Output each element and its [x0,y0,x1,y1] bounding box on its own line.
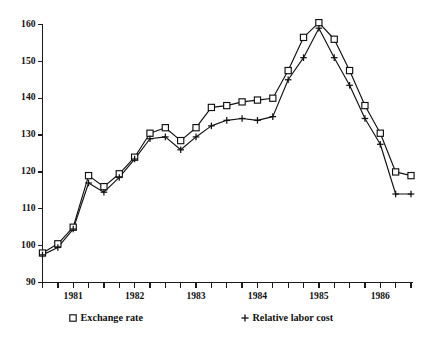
data-point-plus [239,115,246,122]
legend-item-relative-labor-cost: Relative labor cost [241,312,333,323]
data-point-square [408,173,414,179]
legend-label: Exchange rate [81,312,144,323]
data-point-square [162,125,168,131]
x-tick-label: 1985 [309,290,328,301]
data-point-square [393,169,399,175]
x-tick-label: 1982 [125,290,144,301]
data-point-square [101,184,107,190]
data-point-plus [408,191,415,198]
data-point-plus [346,82,353,89]
data-point-square [285,67,291,73]
data-point-plus [223,117,230,124]
data-point-square [208,104,214,110]
y-tick-label: 110 [22,202,36,213]
data-point-square [377,130,383,136]
y-tick-label: 130 [21,128,36,139]
data-point-square [85,173,91,179]
data-point-square [147,130,153,136]
y-axis-ticks: 90100110120130140150160 [21,18,42,287]
data-point-square [362,102,368,108]
data-point-square [254,97,260,103]
chart-figure: 90100110120130140150160 1981198219831984… [0,0,430,346]
x-axis-ticks: 198119821983198419851986 [43,283,412,301]
y-tick-label: 90 [26,276,36,287]
chart-legend: Exchange rateRelative labor cost [70,312,334,323]
data-point-square [239,99,245,105]
y-tick-label: 100 [21,239,36,250]
x-tick-label: 1984 [248,290,267,301]
data-point-plus [392,191,399,198]
data-point-plus [285,76,292,83]
x-tick-label: 1981 [64,290,83,301]
data-point-square [346,67,352,73]
series-line-relative-labor-cost [43,28,412,255]
y-tick-label: 120 [21,165,36,176]
data-point-plus [331,54,338,61]
data-point-square [193,125,199,131]
data-point-plus [377,141,384,148]
data-point-plus [362,115,369,122]
legend-item-exchange-rate: Exchange rate [70,312,144,323]
data-point-plus [270,113,277,120]
y-tick-label: 160 [21,18,36,29]
data-point-square [270,95,276,101]
y-tick-label: 140 [21,91,36,102]
series-paths [43,23,412,255]
y-tick-label: 150 [21,55,36,66]
legend-square-icon [70,315,76,321]
x-tick-label: 1983 [186,290,205,301]
data-point-square [316,20,322,26]
legend-label: Relative labor cost [253,312,334,323]
data-point-square [178,138,184,144]
series-markers [39,20,414,259]
data-point-square [331,36,337,42]
data-point-square [224,102,230,108]
data-point-square [300,34,306,40]
x-tick-label: 1986 [371,290,390,301]
series-line-exchange-rate [43,23,412,253]
data-point-plus [254,117,261,124]
line-chart: 90100110120130140150160 1981198219831984… [0,0,430,346]
data-point-plus [300,54,307,61]
